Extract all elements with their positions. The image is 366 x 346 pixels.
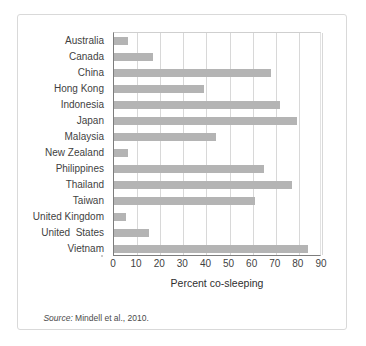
bar-united-kingdom	[114, 213, 126, 221]
bar-row	[114, 49, 320, 65]
source-note-label: Source:	[43, 313, 72, 323]
bar-australia	[114, 37, 128, 45]
y-label-taiwan: Taiwan	[18, 192, 109, 208]
bar-new-zealand	[114, 149, 128, 157]
x-tick-40: 40	[200, 258, 211, 270]
bar-china	[114, 69, 271, 77]
artifact-dot	[101, 255, 103, 257]
x-tick-10: 10	[131, 258, 142, 270]
bar-row	[114, 177, 320, 193]
x-tick-20: 20	[154, 258, 165, 270]
x-axis-title: Percent co-sleeping	[113, 277, 321, 289]
source-note: Source: Mindell et al., 2010.	[34, 303, 149, 333]
bar-row	[114, 209, 320, 225]
x-tick-80: 80	[292, 258, 303, 270]
bar-row	[114, 161, 320, 177]
bar-philippines	[114, 165, 264, 173]
y-axis-category-labels: AustraliaCanadaChinaHong KongIndonesiaJa…	[18, 32, 109, 256]
chart-figure: AustraliaCanadaChinaHong KongIndonesiaJa…	[17, 14, 347, 330]
bar-row	[114, 225, 320, 241]
bar-japan	[114, 117, 297, 125]
bar-row	[114, 241, 320, 257]
y-label-japan: Japan	[18, 112, 109, 128]
bar-row	[114, 145, 320, 161]
y-label-malaysia: Malaysia	[18, 128, 109, 144]
bar-vietnam	[114, 245, 308, 253]
x-tick-0: 0	[110, 258, 116, 270]
y-label-canada: Canada	[18, 48, 109, 64]
y-label-australia: Australia	[18, 32, 109, 48]
y-label-indonesia: Indonesia	[18, 96, 109, 112]
y-label-united-kingdom: United Kingdom	[18, 208, 109, 224]
bar-row	[114, 33, 320, 49]
bar-row	[114, 81, 320, 97]
source-note-text: Mindell et al., 2010.	[73, 313, 149, 323]
bar-row	[114, 97, 320, 113]
x-tick-90: 90	[315, 258, 326, 270]
x-tick-30: 30	[177, 258, 188, 270]
x-axis-tick-labels: 0102030405060708090	[113, 258, 321, 272]
bar-united-states	[114, 229, 149, 237]
plot-area	[113, 32, 321, 256]
y-label-united-states: United States	[18, 224, 109, 240]
bar-row	[114, 193, 320, 209]
y-label-new-zealand: New Zealand	[18, 144, 109, 160]
bar-malaysia	[114, 133, 216, 141]
y-label-vietnam: Vietnam	[18, 240, 109, 256]
y-label-thailand: Thailand	[18, 176, 109, 192]
bar-taiwan	[114, 197, 255, 205]
bar-canada	[114, 53, 153, 61]
bar-thailand	[114, 181, 292, 189]
bar-indonesia	[114, 101, 280, 109]
bar-row	[114, 65, 320, 81]
x-tick-60: 60	[246, 258, 257, 270]
y-label-hong-kong: Hong Kong	[18, 80, 109, 96]
x-tick-70: 70	[269, 258, 280, 270]
gridline-90	[322, 33, 323, 255]
bar-row	[114, 129, 320, 145]
y-label-china: China	[18, 64, 109, 80]
bar-row	[114, 113, 320, 129]
bar-series	[114, 33, 320, 255]
x-tick-50: 50	[223, 258, 234, 270]
bar-hong-kong	[114, 85, 204, 93]
y-label-philippines: Philippines	[18, 160, 109, 176]
